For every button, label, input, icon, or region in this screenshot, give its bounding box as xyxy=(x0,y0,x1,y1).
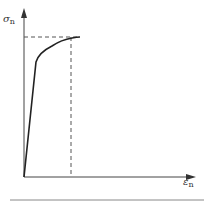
x-axis-subscript: n xyxy=(188,180,193,189)
y-axis-arrow-icon xyxy=(21,8,27,18)
stress-strain-curve xyxy=(24,37,80,177)
y-axis-subscript: n xyxy=(10,17,15,26)
y-axis-symbol: σ xyxy=(3,13,10,24)
x-axis-label: εn xyxy=(183,177,194,189)
y-axis-label: σn xyxy=(3,14,15,26)
stress-strain-chart xyxy=(0,0,204,202)
